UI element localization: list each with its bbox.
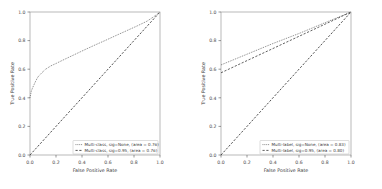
legend[interactable]: Multi-class, sig=None, (area = 0.76) Mul… xyxy=(73,141,159,155)
x-tick-label: 0.2 xyxy=(52,160,59,165)
x-tick-label: 0.8 xyxy=(321,160,328,165)
y-axis-ticks: 0.0 0.2 0.4 0.6 0.8 1.0 xyxy=(209,10,221,158)
x-tick-label: 0.8 xyxy=(130,160,137,165)
y-tick-label: 0.0 xyxy=(209,153,216,158)
x-tick-label: 0.0 xyxy=(26,160,33,165)
x-tick-label: 1.0 xyxy=(156,160,163,165)
legend[interactable]: Multi-label, sig=None, (area = 0.83) Mul… xyxy=(260,141,349,155)
y-tick-label: 0.8 xyxy=(209,38,216,43)
legend-label: Multi-label, sig=None, (area = 0.83) xyxy=(272,142,346,147)
y-tick-label: 0.8 xyxy=(18,38,25,43)
x-tick-label: 1.0 xyxy=(347,160,354,165)
y-tick-label: 0.4 xyxy=(209,96,216,101)
x-tick-label: 0.6 xyxy=(295,160,302,165)
legend-label: Multi-class, sig=None, (area = 0.76) xyxy=(85,142,160,147)
x-axis-ticks: 0.0 0.2 0.4 0.6 0.8 1.0 xyxy=(26,155,163,165)
y-axis-title: True Positive Rate xyxy=(10,62,15,106)
x-tick-label: 0.0 xyxy=(217,160,224,165)
x-tick-label: 0.2 xyxy=(243,160,250,165)
x-axis-title: False Positive Rate xyxy=(264,168,309,173)
y-tick-label: 0.2 xyxy=(209,124,216,129)
x-tick-label: 0.4 xyxy=(269,160,276,165)
x-axis-ticks: 0.0 0.2 0.4 0.6 0.8 1.0 xyxy=(217,155,354,165)
y-tick-label: 0.6 xyxy=(18,67,25,72)
legend-label: Multi-class, sig=0.95, (area = 0.76) xyxy=(85,148,158,153)
x-tick-label: 0.4 xyxy=(78,160,85,165)
x-tick-label: 0.6 xyxy=(104,160,111,165)
y-axis-title: True Positive Rate xyxy=(201,62,206,106)
roc-figure: 0.0 0.2 0.4 0.6 0.8 1.0 0.0 0.2 0.4 0.6 … xyxy=(0,0,382,189)
y-tick-label: 0.2 xyxy=(18,124,25,129)
y-tick-label: 1.0 xyxy=(18,10,25,15)
y-tick-label: 0.4 xyxy=(18,96,25,101)
y-tick-label: 1.0 xyxy=(209,10,216,15)
x-axis-title: False Positive Rate xyxy=(73,168,118,173)
y-tick-label: 0.6 xyxy=(209,67,216,72)
y-axis-ticks: 0.0 0.2 0.4 0.6 0.8 1.0 xyxy=(18,10,30,158)
y-tick-label: 0.0 xyxy=(18,153,25,158)
roc-panel-multilabel: 0.0 0.2 0.4 0.6 0.8 1.0 0.0 0.2 0.4 0.6 … xyxy=(191,0,382,189)
legend-label: Multi-label, sig=0.95, (area = 0.80) xyxy=(272,148,345,153)
roc-panel-multiclass: 0.0 0.2 0.4 0.6 0.8 1.0 0.0 0.2 0.4 0.6 … xyxy=(0,0,191,189)
